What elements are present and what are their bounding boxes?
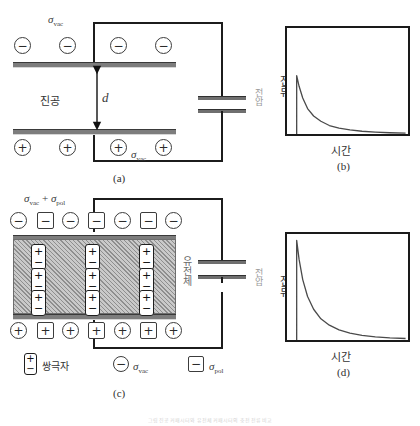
charge-free-surface: + (10, 322, 27, 339)
dipole: +− (31, 244, 46, 270)
sigma-subscript: vac (29, 199, 39, 207)
voltage-source-label-a: 전압 (252, 88, 265, 106)
charge-bound-polarization: − (140, 212, 157, 229)
legend-label-sigma-vac: σvac (133, 360, 148, 375)
charge-negative: − (155, 37, 172, 54)
charge-bound-polarization: − (37, 212, 54, 229)
panel-label-d: (d) (337, 366, 350, 378)
charge-free-surface: − (165, 212, 182, 229)
charge-positive: + (14, 139, 31, 156)
chart-b-plot-area (285, 26, 410, 136)
circuit-wire-right-lower (221, 112, 223, 162)
legend-dipole-icon: + − (24, 353, 37, 375)
dipole: +− (85, 244, 100, 270)
panel-label-a: (a) (113, 172, 125, 184)
panel-a: 전압 σvac − − − − 진공 (0, 0, 265, 190)
circuit-wire-bottom-c (93, 347, 223, 349)
current-decay-curve (297, 76, 406, 134)
chart-d-xlabel: 시간 (331, 348, 351, 364)
dielectric-label: 유전체 (179, 256, 194, 286)
dipole-minus: − (142, 303, 151, 314)
sigma-subscript: pol (214, 367, 223, 375)
sigma-subscript: vac (53, 20, 63, 28)
charge-positive: + (59, 139, 76, 156)
current-decay-curve (297, 240, 406, 340)
chart-b-xlabel: 시간 (331, 142, 351, 158)
circuit-wire-left-bottom (93, 133, 95, 162)
sigma-vac-pol-label-c: σvac + σpol (24, 192, 65, 207)
circuit-wire-right-c (221, 198, 223, 259)
voltage-source-label-c: 전압 (252, 268, 265, 286)
charge-free-surface: − (114, 212, 131, 229)
dipole: +− (139, 244, 154, 270)
charge-negative: − (14, 37, 31, 54)
legend-square-minus-icon: − (188, 356, 204, 372)
figure-capacitor-dielectric: 전압 σvac − − − − 진공 (0, 0, 420, 426)
panel-label-b: (b) (337, 160, 350, 172)
plus-operator: + (39, 192, 51, 204)
panel-c: 전압 σvac + σpol −−−−−−− +−+−+−+−+−+−+−+−+… (0, 190, 265, 405)
battery-plate-long-c (198, 260, 246, 264)
circuit-wire-top (93, 22, 223, 24)
charge-positive: + (110, 139, 127, 156)
charge-free-surface: + (62, 322, 79, 339)
chart-b-curve (287, 28, 408, 134)
charge-bound-polarization: − (88, 212, 105, 229)
dipole-minus: − (88, 257, 97, 268)
battery-lead-bottom (221, 111, 223, 117)
charge-free-surface: − (10, 212, 27, 229)
circuit-wire-bottom (93, 160, 223, 162)
battery-lead-bottom-c (221, 277, 223, 283)
battery-plate-long (198, 96, 246, 100)
legend-circle-minus-icon: − (113, 356, 129, 372)
dipole: +− (139, 290, 154, 316)
circuit-wire-top-c (93, 198, 223, 200)
circuit-wire-right (221, 22, 223, 95)
legend: + − 쌍극자 − σvac − σpol (20, 353, 250, 377)
gap-distance-label: d (102, 90, 109, 106)
dipole: +− (31, 290, 46, 316)
charge-bound-polarization: + (37, 322, 54, 339)
dipole-minus: − (88, 303, 97, 314)
chart-d-curve (287, 234, 408, 340)
sigma-vac-top-label-a: σvac (48, 13, 63, 28)
panel-label-c: (c) (113, 387, 125, 399)
dipole-minus: − (34, 257, 43, 268)
charge-bound-polarization: + (88, 322, 105, 339)
panel-d: 전류 시간 (d) (265, 212, 420, 402)
dipole: +− (85, 290, 100, 316)
voltage-source (196, 92, 248, 116)
chart-d-plot-area (285, 232, 410, 342)
legend-label-sigma-pol: σpol (209, 360, 223, 375)
dipole-minus: − (142, 257, 151, 268)
medium-label-a: 진공 (40, 92, 60, 108)
charge-free-surface: − (62, 212, 79, 229)
charge-free-surface: + (165, 322, 182, 339)
charge-free-surface: + (114, 322, 131, 339)
panel-b: 전류 시간 (b) (265, 20, 420, 195)
circuit-wire-right-lower-c (221, 292, 223, 349)
sigma-subscript: pol (56, 199, 65, 207)
charge-negative: − (110, 37, 127, 54)
sigma-subscript: vac (136, 155, 146, 163)
charge-positive: + (155, 139, 172, 156)
charge-negative: − (59, 37, 76, 54)
sigma-subscript: vac (138, 367, 148, 375)
dipole-minus: − (34, 303, 43, 314)
bottom-caption: 그림 진공 커패시터와 유전체 커패시터의 충전 전류 비교 (0, 416, 420, 423)
dipole-minus: − (26, 364, 34, 374)
voltage-source-c (196, 256, 248, 282)
sigma-vac-bottom-label-a: σvac (131, 148, 146, 163)
circuit-wire-left-top (93, 22, 95, 67)
legend-label-dipole: 쌍극자 (42, 358, 69, 373)
charge-bound-polarization: + (140, 322, 157, 339)
